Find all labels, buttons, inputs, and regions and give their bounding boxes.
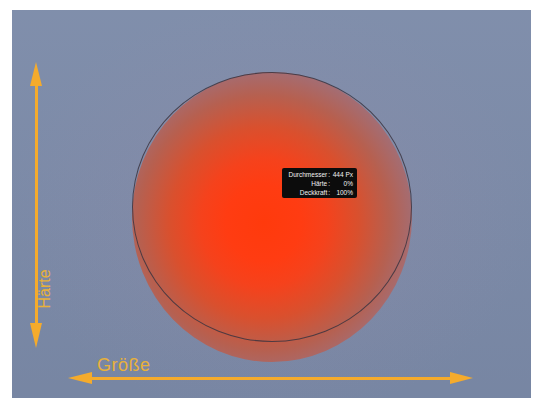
arrow-right-icon (450, 372, 473, 384)
hardness-label: Härte (311, 179, 327, 188)
arrow-down-icon (30, 323, 42, 348)
horizontal-guide-line (88, 377, 453, 380)
diameter-label: Durchmesser (289, 170, 328, 179)
opacity-label: Deckkraft (300, 188, 327, 197)
tooltip-row-diameter: Durchmesser : 444 Px (284, 170, 353, 179)
painting-canvas[interactable]: Durchmesser : 444 Px Härte : 0% Deckkraf… (12, 10, 531, 398)
hardness-value: 0% (331, 179, 353, 188)
tooltip-row-opacity: Deckkraft : 100% (284, 188, 353, 197)
hardness-axis-label: Härte (36, 265, 54, 313)
tooltip-row-hardness: Härte : 0% (284, 179, 353, 188)
brush-cursor-outline (132, 72, 412, 342)
diameter-value: 444 Px (331, 170, 353, 179)
brush-settings-tooltip: Durchmesser : 444 Px Härte : 0% Deckkraf… (282, 168, 357, 198)
opacity-value: 100% (331, 188, 353, 197)
size-axis-label: Größe (97, 355, 151, 376)
